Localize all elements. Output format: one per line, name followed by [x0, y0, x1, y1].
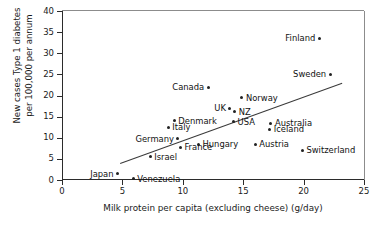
data-point [149, 155, 152, 158]
x-tick-label: 0 [47, 187, 77, 196]
data-point-label: Austria [259, 140, 289, 149]
y-tick-mark [57, 11, 62, 12]
x-tick-mark [243, 180, 244, 185]
x-tick-mark [364, 180, 365, 185]
data-point-label: Iceland [274, 125, 304, 134]
data-point-label: Switzerland [306, 146, 355, 155]
data-point [254, 143, 257, 146]
data-point [179, 146, 182, 149]
data-point-label: Venezuela [137, 174, 180, 183]
x-tick-mark [122, 180, 123, 185]
data-point-label: NZ [239, 107, 251, 116]
y-tick-mark [57, 117, 62, 118]
scatter-chart: 0510152025303540 0510152025 New cases Ty… [0, 0, 382, 225]
data-point-label: Finland [285, 34, 315, 43]
y-axis-title: New cases Type 1 diabetes per 100,000 pe… [12, 0, 35, 151]
data-point [318, 37, 321, 40]
y-tick-mark [57, 138, 62, 139]
data-point-label: USA [238, 117, 255, 126]
x-tick-label: 10 [168, 187, 198, 196]
y-tick-mark [57, 74, 62, 75]
data-point-label: Italy [172, 123, 190, 132]
data-point-label: Norway [246, 93, 278, 102]
data-point [207, 86, 210, 89]
data-point-label: Israel [154, 152, 177, 161]
data-point-label: UK [214, 104, 226, 113]
x-tick-label: 20 [289, 187, 319, 196]
x-tick-label: 5 [107, 187, 137, 196]
y-tick-mark [57, 96, 62, 97]
y-tick-label: 5 [28, 154, 54, 163]
x-tick-mark [183, 180, 184, 185]
x-tick-mark [304, 180, 305, 185]
y-axis-title-line1: New cases Type 1 diabetes [12, 0, 24, 151]
data-point-label: France [184, 143, 212, 152]
plot-right-rule [364, 11, 365, 180]
data-point [329, 73, 332, 76]
data-point-label: Germany [135, 134, 174, 143]
data-point [167, 126, 170, 129]
data-point [301, 149, 304, 152]
x-tick-label: 25 [349, 187, 379, 196]
x-tick-mark [62, 180, 63, 185]
y-tick-mark [57, 159, 62, 160]
data-point-label: Sweden [293, 70, 326, 79]
data-point-label: Japan [90, 169, 113, 178]
y-tick-mark [57, 32, 62, 33]
x-axis-title: Milk protein per capita (excluding chees… [62, 203, 364, 213]
y-axis-title-line2: per 100,000 per annum [23, 0, 35, 151]
y-tick-mark [57, 53, 62, 54]
x-tick-label: 15 [228, 187, 258, 196]
data-point-label: Canada [172, 83, 204, 92]
y-tick-label: 0 [28, 176, 54, 185]
